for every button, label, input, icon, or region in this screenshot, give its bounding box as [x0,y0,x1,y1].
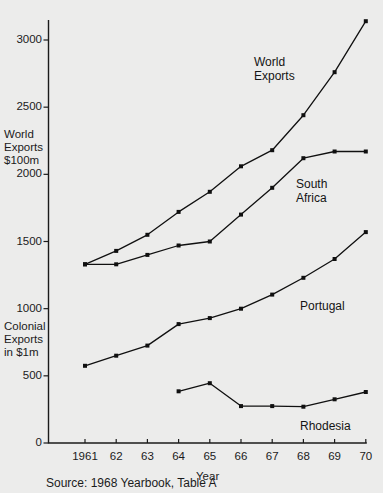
data-point-portugal [83,364,87,368]
y-tick-label: 3000 [0,33,42,45]
source-note: Source: 1968 Yearbook, Table A [46,476,217,490]
data-point-world-exports [364,19,368,23]
data-point-world-exports [239,164,243,168]
data-point-south-africa [301,156,305,160]
data-point-portugal [333,257,337,261]
data-point-rhodesia [208,381,212,385]
data-point-rhodesia [177,389,181,393]
data-point-rhodesia [301,405,305,409]
data-point-south-africa [208,240,212,244]
y-axis-title-upper: WorldExports$100m [4,128,43,166]
data-point-portugal [239,307,243,311]
chart-series-group [83,19,368,409]
data-point-world-exports [270,148,274,152]
data-point-rhodesia [364,390,368,394]
data-point-world-exports [301,113,305,117]
y-tick-label: 500 [0,369,42,381]
series-label-portugal: Portugal [300,300,345,314]
data-point-portugal [114,354,118,358]
y-tick-label: 1000 [0,302,42,314]
data-point-portugal [364,230,368,234]
data-point-south-africa [333,150,337,154]
series-line-rhodesia [179,383,366,407]
chart-axes [44,20,367,443]
data-point-portugal [177,322,181,326]
data-point-south-africa [270,186,274,190]
data-point-world-exports [177,210,181,214]
data-point-south-africa [83,262,87,266]
data-point-world-exports [114,249,118,253]
data-point-world-exports [145,233,149,237]
data-point-south-africa [239,213,243,217]
data-point-world-exports [208,190,212,194]
series-label-world-exports: WorldExports [254,56,295,83]
series-label-rhodesia: Rhodesia [300,420,351,434]
y-tick-label: 1500 [0,235,42,247]
data-point-portugal [208,316,212,320]
data-point-south-africa [364,150,368,154]
data-point-south-africa [145,253,149,257]
data-point-rhodesia [239,404,243,408]
axis-lines [49,20,367,443]
data-point-rhodesia [270,404,274,408]
y-axis-title-lower: ColonialExportsin $1m [4,320,46,358]
series-label-south-africa: SouthAfrica [296,178,327,205]
data-point-south-africa [114,262,118,266]
data-point-rhodesia [333,397,337,401]
chart-container: 050010001500200025003000 196162636465666… [0,0,383,493]
data-point-portugal [270,293,274,297]
data-point-south-africa [177,244,181,248]
x-tick-label: 70 [346,450,383,462]
series-line-south-africa [85,152,366,265]
data-point-world-exports [333,70,337,74]
y-tick-label: 2500 [0,100,42,112]
y-tick-label: 2000 [0,167,42,179]
y-tick-label: 0 [0,436,42,448]
data-point-portugal [145,344,149,348]
data-point-portugal [301,276,305,280]
